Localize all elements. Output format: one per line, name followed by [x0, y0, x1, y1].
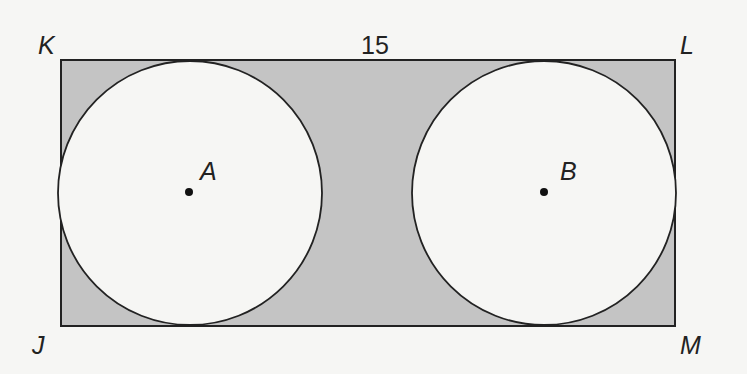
vertex-label-k: K	[38, 33, 55, 58]
side-length-label: 15	[361, 33, 389, 58]
center-point-a	[185, 188, 193, 196]
center-label-a: A	[200, 159, 217, 184]
vertex-label-m: M	[680, 333, 701, 358]
center-label-b: B	[560, 159, 577, 184]
vertex-label-j: J	[32, 333, 45, 358]
center-point-b	[540, 188, 548, 196]
vertex-label-l: L	[680, 33, 694, 58]
